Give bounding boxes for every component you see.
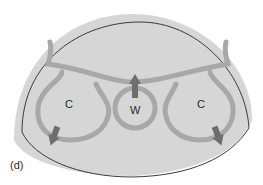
dome-circulation-diagram bbox=[0, 0, 263, 185]
panel-label: (d) bbox=[10, 159, 23, 171]
center-cell-label: W bbox=[130, 104, 140, 116]
left-cell-label: C bbox=[65, 98, 73, 110]
right-cell-label: C bbox=[197, 98, 205, 110]
